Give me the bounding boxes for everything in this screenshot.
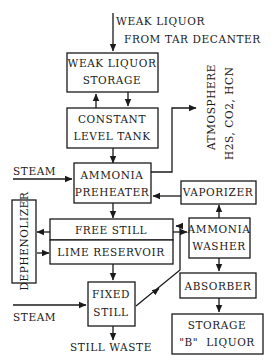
svg-text:WEAK LIQUOR: WEAK LIQUOR xyxy=(68,57,157,69)
svg-text:STILL: STILL xyxy=(93,306,128,318)
node-vaporizer: VAPORIZER xyxy=(181,181,256,204)
output-atmosphere-label: ATMOSPHERE xyxy=(205,64,217,151)
svg-text:STORAGE: STORAGE xyxy=(83,74,142,86)
svg-text:DEPHENOLIZER: DEPHENOLIZER xyxy=(18,191,30,290)
input-weak-liquor-label: WEAK LIQUOR xyxy=(116,15,205,27)
svg-text:LEVEL TANK: LEVEL TANK xyxy=(73,130,150,142)
svg-text:"B" LIQUOR: "B" LIQUOR xyxy=(179,336,255,348)
svg-text:FREE STILL: FREE STILL xyxy=(75,224,147,236)
svg-text:ABSORBER: ABSORBER xyxy=(183,280,252,292)
node-absorber: ABSORBER xyxy=(180,273,256,298)
node-dephenolizer: DEPHENOLIZER xyxy=(12,191,36,290)
input-steam-bottom-label: STEAM xyxy=(13,311,56,323)
process-flow-diagram: WEAK LIQUOR FROM TAR DECANTER STEAM STEA… xyxy=(0,0,276,362)
svg-text:WASHER: WASHER xyxy=(192,240,246,252)
svg-text:LIME RESERVOIR: LIME RESERVOIR xyxy=(57,246,165,258)
output-still-waste-label: STILL WASTE xyxy=(70,341,152,353)
input-steam-top-label: STEAM xyxy=(13,165,56,177)
svg-text:FIXED: FIXED xyxy=(92,288,130,300)
node-ammonia-preheater: AMMONIA PREHEATER xyxy=(74,163,151,203)
node-constant-level-tank: CONSTANT LEVEL TANK xyxy=(67,108,158,148)
output-gases-label: H2S, CO2, HCN xyxy=(223,66,235,160)
node-fixed-still: FIXED STILL xyxy=(88,282,135,326)
svg-text:PREHEATER: PREHEATER xyxy=(75,186,150,198)
node-free-still: FREE STILL xyxy=(50,219,173,240)
svg-text:CONSTANT: CONSTANT xyxy=(78,113,146,125)
svg-text:VAPORIZER: VAPORIZER xyxy=(182,186,254,198)
node-weak-liquor-storage: WEAK LIQUOR STORAGE xyxy=(67,53,158,92)
node-storage-b-liquor: STORAGE "B" LIQUOR xyxy=(172,314,263,354)
svg-text:AMMONIA: AMMONIA xyxy=(187,223,251,235)
svg-text:AMMONIA: AMMONIA xyxy=(80,169,144,181)
svg-text:STORAGE: STORAGE xyxy=(188,319,247,331)
input-tar-decanter-label: FROM TAR DECANTER xyxy=(124,33,261,45)
node-ammonia-washer: AMMONIA WASHER xyxy=(187,218,251,258)
node-lime-reservoir: LIME RESERVOIR xyxy=(50,240,173,264)
